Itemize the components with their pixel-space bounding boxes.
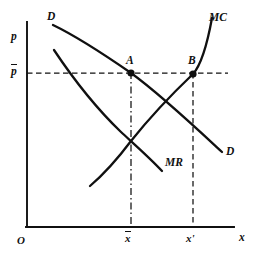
economics-diagram: p p O x x' x D D MC MR A B — [0, 0, 258, 257]
diagram-canvas — [0, 0, 258, 257]
y-axis-label: p — [11, 31, 17, 43]
x-bar-axis-label: x — [125, 233, 131, 244]
marginal-revenue-curve — [54, 50, 162, 171]
price-level-label: p — [11, 66, 17, 78]
x-axis-label: x — [239, 232, 245, 244]
demand-curve-label-bottom: D — [226, 146, 234, 158]
marginal-revenue-label: MR — [165, 157, 183, 169]
point-b-marker — [189, 70, 196, 77]
point-b-label: B — [188, 55, 196, 67]
price-level-label-text: p — [11, 66, 17, 78]
point-a-marker — [127, 69, 134, 76]
origin-label: O — [17, 235, 25, 246]
x-prime-axis-label: x' — [186, 233, 195, 244]
marginal-cost-label: MC — [209, 12, 227, 24]
x-bar-axis-label-text: x — [125, 233, 131, 244]
point-a-label: A — [126, 55, 134, 67]
demand-curve-label-top: D — [47, 11, 55, 23]
